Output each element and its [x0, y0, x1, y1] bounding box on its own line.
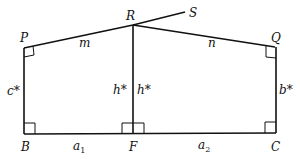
- label-m: m: [79, 36, 90, 50]
- label-C: C: [271, 140, 280, 154]
- right-angle-Q: [266, 46, 276, 58]
- label-c-star: c*: [7, 84, 20, 98]
- label-a2: a2: [198, 138, 210, 154]
- right-angle-B: [24, 123, 35, 134]
- label-h-star-left: h*: [113, 83, 127, 97]
- segment-BC: [24, 133, 276, 134]
- segment-RQ: [133, 25, 275, 47]
- right-angle-C: [265, 122, 276, 133]
- label-R: R: [125, 9, 135, 23]
- segment-RS: [133, 12, 185, 25]
- label-Q: Q: [271, 31, 281, 45]
- geometry-diagram: P R S Q B F C m n c* h* h* b* a1 a2: [0, 0, 300, 159]
- diagram-svg: P R S Q B F C m n c* h* h* b* a1 a2: [0, 0, 300, 159]
- label-F: F: [128, 140, 138, 154]
- label-b-star: b*: [279, 83, 293, 97]
- label-a1: a1: [73, 139, 85, 155]
- label-P: P: [19, 31, 29, 45]
- label-n: n: [208, 36, 216, 50]
- label-S: S: [189, 6, 197, 20]
- label-h-star-right: h*: [137, 83, 151, 97]
- label-B: B: [20, 140, 30, 154]
- right-angle-F-left: [122, 123, 133, 134]
- right-angle-F-right: [133, 123, 144, 134]
